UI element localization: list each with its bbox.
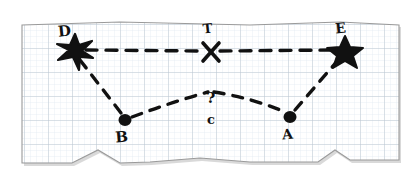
label-b: B	[114, 128, 128, 147]
label-t: T	[202, 21, 214, 37]
unknown-question-mark: ?	[207, 89, 216, 107]
sketch-canvas: D T E B A ? c	[0, 0, 420, 188]
label-e: E	[334, 20, 346, 37]
marker-a-dot-icon[interactable]	[284, 111, 297, 123]
label-d: D	[57, 21, 72, 40]
label-c: c	[207, 112, 215, 127]
graph-paper-sketch: D T E B A ? c	[0, 0, 420, 188]
marker-b-dot-icon[interactable]	[119, 114, 132, 126]
